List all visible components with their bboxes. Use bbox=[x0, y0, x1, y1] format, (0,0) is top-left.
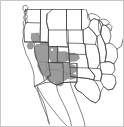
us-west-choropleth-map[interactable] bbox=[0, 0, 124, 127]
highlight-region-sw-oregon[interactable] bbox=[31, 33, 40, 42]
map-figure bbox=[0, 0, 124, 127]
highlight-region-ne-california[interactable] bbox=[27, 43, 34, 49]
